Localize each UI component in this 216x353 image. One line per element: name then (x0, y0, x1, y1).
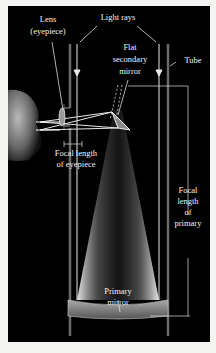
label-focal-primary-1: Focal (179, 185, 199, 195)
focal-eyepiece-bracket (64, 141, 82, 147)
label-lens: Lens (40, 14, 57, 24)
label-focal-eyepiece-1: Focal length (55, 148, 98, 158)
reflected-rays (40, 112, 118, 130)
label-eyepiece: (eyepiece) (30, 26, 66, 36)
label-mirror: mirror (119, 66, 141, 76)
label-focal-primary-3: of (184, 207, 191, 217)
label-focal-primary-2: length (177, 196, 199, 206)
label-flat: Flat (123, 42, 137, 52)
face-icon (8, 90, 41, 161)
label-focal-eyepiece-2: of eyepiece (57, 159, 96, 169)
label-primary-mirror: mirror (107, 297, 129, 307)
label-focal-primary-4: primary (175, 218, 203, 228)
label-secondary: secondary (113, 54, 148, 64)
label-primary: Primary (104, 286, 132, 296)
light-cone (77, 110, 159, 300)
eyepiece-lens (59, 108, 65, 126)
telescope-diagram: Lens (eyepiece) Light rays Flat secondar… (0, 0, 216, 353)
label-light-rays: Light rays (101, 12, 136, 22)
label-tube: Tube (184, 55, 201, 65)
